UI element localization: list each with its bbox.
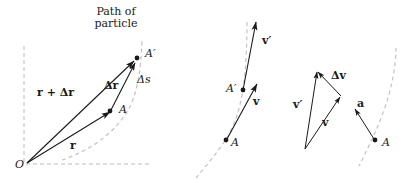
label-vector-v-prime-right: v′ bbox=[293, 99, 302, 111]
particle-path-dashed-curve-middle bbox=[196, 22, 247, 178]
point-a-marker-right bbox=[373, 138, 378, 143]
point-a-marker-middle bbox=[224, 138, 229, 143]
label-vector-v-prime-middle: v′ bbox=[262, 35, 271, 47]
label-vector-a-right: a bbox=[357, 98, 364, 110]
label-vector-r: r bbox=[70, 140, 76, 152]
vector-v-prime-arrow-middle bbox=[243, 22, 256, 90]
label-vector-delta-r: Δr bbox=[104, 80, 118, 92]
vector-v-prime-arrow-right bbox=[305, 72, 317, 149]
point-a-prime-marker bbox=[135, 56, 140, 61]
left-panel-group bbox=[24, 40, 152, 164]
path-caption-line-2: particle bbox=[95, 17, 138, 30]
label-point-a-right: A bbox=[382, 137, 390, 149]
label-vector-delta-v-right: Δv bbox=[331, 70, 346, 82]
path-caption-line-1: Path of bbox=[96, 5, 135, 18]
label-point-a-left: A bbox=[119, 104, 127, 116]
path-of-particle-caption: Path of particle bbox=[86, 6, 146, 31]
label-vector-v-right: v bbox=[322, 117, 328, 129]
point-a-marker bbox=[108, 109, 113, 114]
label-delta-s: Δs bbox=[137, 74, 151, 86]
vector-a-arrow-right bbox=[355, 109, 374, 139]
label-point-a-prime-left: A′ bbox=[145, 48, 155, 60]
vector-r-arrow bbox=[27, 112, 110, 163]
label-point-a-prime-middle: A′ bbox=[226, 83, 236, 95]
point-a-prime-marker-middle bbox=[241, 88, 246, 93]
vector-r-plus-delta-r-arrow bbox=[27, 61, 134, 163]
label-vector-v-middle: v bbox=[253, 96, 259, 108]
label-origin-o: O bbox=[15, 159, 24, 171]
label-point-a-middle: A bbox=[231, 137, 239, 149]
middle-panel-group bbox=[196, 22, 257, 178]
label-vector-r-plus-delta-r: r + Δr bbox=[37, 87, 74, 99]
physics-vector-diagram: Path of particle A′ A O r r + Δr Δr Δs v… bbox=[0, 0, 415, 183]
particle-path-dashed-curve-right bbox=[359, 48, 396, 166]
